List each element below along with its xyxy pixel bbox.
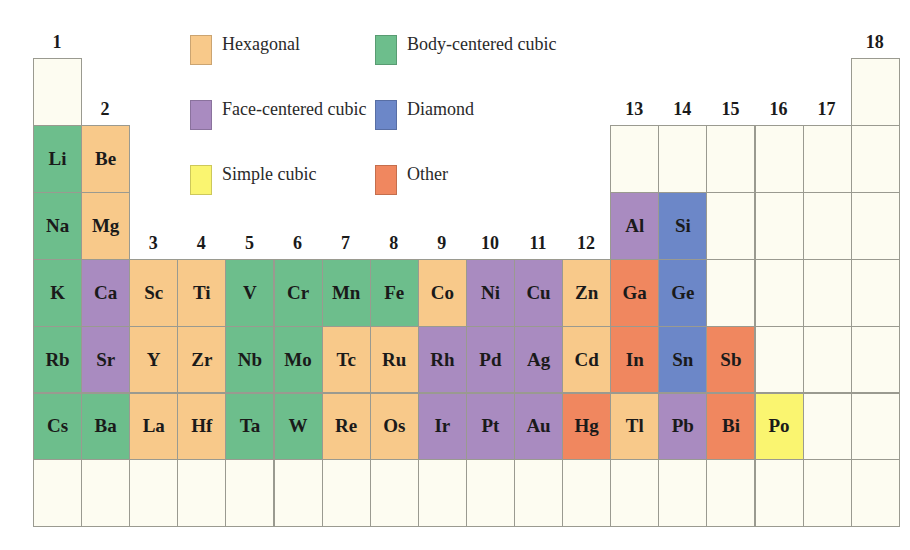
group-number-18: 18 bbox=[851, 32, 899, 53]
periodic-table-crystal-structures: HexagonalBody-centered cubicFace-centere… bbox=[0, 0, 910, 550]
empty-cell bbox=[755, 326, 804, 394]
legend-label: Diamond bbox=[407, 100, 557, 118]
element-pb: Pb bbox=[658, 393, 707, 461]
empty-cell bbox=[33, 58, 82, 126]
empty-cell bbox=[706, 459, 755, 527]
empty-cell bbox=[803, 192, 852, 260]
element-zn: Zn bbox=[562, 259, 611, 327]
empty-cell bbox=[706, 125, 755, 193]
element-y: Y bbox=[129, 326, 178, 394]
element-w: W bbox=[274, 393, 323, 461]
element-v: V bbox=[225, 259, 274, 327]
empty-cell bbox=[81, 459, 130, 527]
legend-item-hexagonal: Hexagonal bbox=[190, 35, 372, 65]
element-rh: Rh bbox=[418, 326, 467, 394]
group-number-12: 12 bbox=[562, 233, 610, 254]
element-ga: Ga bbox=[610, 259, 659, 327]
empty-cell bbox=[803, 393, 852, 461]
empty-cell bbox=[803, 259, 852, 327]
empty-cell bbox=[851, 125, 900, 193]
legend-label: Simple cubic bbox=[222, 165, 372, 183]
empty-cell bbox=[610, 459, 659, 527]
empty-cell bbox=[658, 459, 707, 527]
legend-label: Other bbox=[407, 165, 557, 183]
legend-item-simple-cubic: Simple cubic bbox=[190, 165, 372, 195]
group-number-11: 11 bbox=[514, 233, 562, 254]
empty-cell bbox=[370, 459, 419, 527]
legend-swatch bbox=[190, 165, 212, 195]
element-pd: Pd bbox=[466, 326, 515, 394]
element-be: Be bbox=[81, 125, 130, 193]
group-number-16: 16 bbox=[755, 99, 803, 120]
group-number-1: 1 bbox=[33, 32, 81, 53]
empty-cell bbox=[562, 459, 611, 527]
empty-cell bbox=[322, 459, 371, 527]
element-mg: Mg bbox=[81, 192, 130, 260]
element-hf: Hf bbox=[177, 393, 226, 461]
element-tl: Tl bbox=[610, 393, 659, 461]
element-ti: Ti bbox=[177, 259, 226, 327]
element-hg: Hg bbox=[562, 393, 611, 461]
element-sr: Sr bbox=[81, 326, 130, 394]
empty-cell bbox=[803, 326, 852, 394]
empty-cell bbox=[514, 459, 563, 527]
element-si: Si bbox=[658, 192, 707, 260]
element-fe: Fe bbox=[370, 259, 419, 327]
group-number-3: 3 bbox=[129, 233, 177, 254]
empty-cell bbox=[851, 192, 900, 260]
element-al: Al bbox=[610, 192, 659, 260]
empty-cell bbox=[466, 459, 515, 527]
empty-cell bbox=[706, 192, 755, 260]
element-sn: Sn bbox=[658, 326, 707, 394]
element-ge: Ge bbox=[658, 259, 707, 327]
group-number-4: 4 bbox=[177, 233, 225, 254]
empty-cell bbox=[851, 326, 900, 394]
element-cs: Cs bbox=[33, 393, 82, 461]
element-mn: Mn bbox=[322, 259, 371, 327]
legend-item-other: Other bbox=[375, 165, 557, 195]
element-ca: Ca bbox=[81, 259, 130, 327]
element-ta: Ta bbox=[225, 393, 274, 461]
group-number-5: 5 bbox=[225, 233, 273, 254]
group-number-6: 6 bbox=[274, 233, 322, 254]
legend-swatch bbox=[375, 100, 397, 130]
empty-cell bbox=[129, 459, 178, 527]
group-number-8: 8 bbox=[370, 233, 418, 254]
element-ag: Ag bbox=[514, 326, 563, 394]
empty-cell bbox=[851, 58, 900, 126]
group-number-2: 2 bbox=[81, 99, 129, 120]
group-number-10: 10 bbox=[466, 233, 514, 254]
element-in: In bbox=[610, 326, 659, 394]
element-sb: Sb bbox=[706, 326, 755, 394]
empty-cell bbox=[706, 259, 755, 327]
empty-cell bbox=[658, 125, 707, 193]
element-zr: Zr bbox=[177, 326, 226, 394]
legend-item-bcc: Body-centered cubic bbox=[375, 35, 557, 65]
group-number-15: 15 bbox=[706, 99, 754, 120]
element-pt: Pt bbox=[466, 393, 515, 461]
legend-label: Body-centered cubic bbox=[407, 35, 557, 53]
element-ni: Ni bbox=[466, 259, 515, 327]
element-cr: Cr bbox=[274, 259, 323, 327]
element-ru: Ru bbox=[370, 326, 419, 394]
element-cu: Cu bbox=[514, 259, 563, 327]
legend-item-diamond: Diamond bbox=[375, 100, 557, 130]
legend-swatch bbox=[190, 35, 212, 65]
empty-cell bbox=[755, 459, 804, 527]
legend-label: Face-centered cubic bbox=[222, 100, 372, 118]
element-ba: Ba bbox=[81, 393, 130, 461]
group-number-13: 13 bbox=[610, 99, 658, 120]
element-li: Li bbox=[33, 125, 82, 193]
legend-label: Hexagonal bbox=[222, 35, 372, 53]
element-re: Re bbox=[322, 393, 371, 461]
element-ir: Ir bbox=[418, 393, 467, 461]
element-bi: Bi bbox=[706, 393, 755, 461]
legend-swatch bbox=[375, 35, 397, 65]
element-tc: Tc bbox=[322, 326, 371, 394]
empty-cell bbox=[177, 459, 226, 527]
empty-cell bbox=[851, 393, 900, 461]
empty-cell bbox=[851, 459, 900, 527]
legend-swatch bbox=[375, 165, 397, 195]
empty-cell bbox=[851, 259, 900, 327]
element-k: K bbox=[33, 259, 82, 327]
